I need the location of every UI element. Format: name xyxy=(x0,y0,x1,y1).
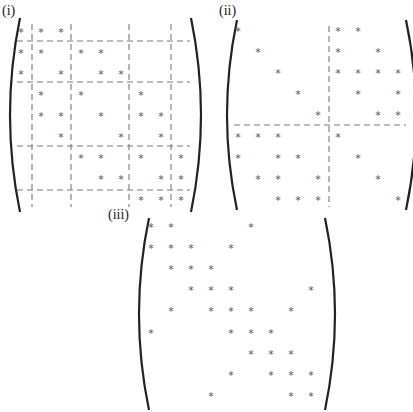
nonzero-entry: * xyxy=(308,284,314,297)
matrix-iii: ********************************* xyxy=(0,0,413,412)
nonzero-entry: * xyxy=(268,348,274,361)
nonzero-entry: * xyxy=(268,369,274,382)
nonzero-entry: * xyxy=(148,221,154,234)
nonzero-entry: * xyxy=(148,242,154,255)
right-bracket xyxy=(325,218,335,410)
nonzero-entry: * xyxy=(228,305,234,318)
nonzero-entry: * xyxy=(168,263,174,276)
nonzero-entry: * xyxy=(168,305,174,318)
nonzero-entry: * xyxy=(268,327,274,340)
nonzero-entry: * xyxy=(288,369,294,382)
nonzero-entry: * xyxy=(288,390,294,403)
nonzero-entry: * xyxy=(228,284,234,297)
nonzero-entry: * xyxy=(188,242,194,255)
nonzero-entry: * xyxy=(248,327,254,340)
nonzero-entry: * xyxy=(228,369,234,382)
nonzero-entry: * xyxy=(188,284,194,297)
nonzero-entry: * xyxy=(148,327,154,340)
matrix-panel-iii: (iii) ********************************* xyxy=(0,0,413,412)
nonzero-entry: * xyxy=(288,305,294,318)
nonzero-entry: * xyxy=(208,263,214,276)
nonzero-entry: * xyxy=(308,369,314,382)
nonzero-entry: * xyxy=(208,390,214,403)
nonzero-entry: * xyxy=(288,348,294,361)
nonzero-entry: * xyxy=(228,242,234,255)
nonzero-entry: * xyxy=(168,242,174,255)
nonzero-entry: * xyxy=(228,327,234,340)
nonzero-entry: * xyxy=(248,305,254,318)
nonzero-entry: * xyxy=(208,305,214,318)
nonzero-entry: * xyxy=(188,263,194,276)
nonzero-entry: * xyxy=(248,348,254,361)
nonzero-entry: * xyxy=(168,221,174,234)
nonzero-entry: * xyxy=(208,284,214,297)
nonzero-entry: * xyxy=(308,390,314,403)
nonzero-entry: * xyxy=(248,221,254,234)
